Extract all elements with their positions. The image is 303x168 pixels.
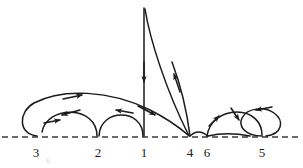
arc-top-to-4 xyxy=(145,9,189,136)
arc-6-tail xyxy=(208,134,250,136)
orbit-diagram xyxy=(0,0,303,168)
axis-label-5: 5 xyxy=(252,146,272,159)
loop-5 xyxy=(241,109,281,136)
arc-6-to-5 xyxy=(207,112,262,136)
axis-label-6: 6 xyxy=(197,146,217,159)
scan-smudge: 6 xyxy=(46,157,50,166)
arc-6-to-5-arrowhead xyxy=(209,116,219,126)
axis-label-1: 1 xyxy=(134,146,154,159)
axis-label-3: 3 xyxy=(26,146,46,159)
arc-1-to-2-arrowhead xyxy=(116,110,133,113)
figure-canvas: 3 2 1 4 6 5 6 xyxy=(0,0,303,168)
axis-label-2: 2 xyxy=(88,146,108,159)
arc-3-to-1 xyxy=(22,93,188,136)
arc-6-to-5-arrowhead-down xyxy=(231,108,239,120)
arc-2-to-3 xyxy=(42,112,97,136)
arc-4-to-6 xyxy=(190,132,208,136)
arc-1-to-2 xyxy=(99,115,143,136)
arc-3-to-1-arrowhead-top xyxy=(63,95,82,99)
